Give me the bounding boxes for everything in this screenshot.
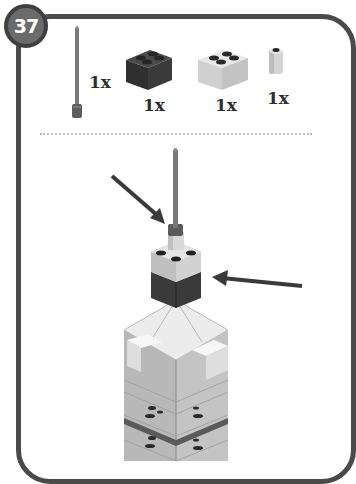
placed-bricks (151, 148, 201, 308)
step-number: 37 (14, 15, 38, 37)
step-badge: 37 (4, 4, 48, 48)
arrow-icon (112, 176, 302, 286)
round-brick-quantity: 1x (267, 88, 289, 108)
assembly-illustration (0, 140, 334, 461)
antenna-quantity: 1x (89, 72, 111, 92)
dark-brick-part-icon (124, 46, 174, 92)
light-brick-quantity: 1x (215, 95, 237, 115)
light-brick-part-icon (196, 46, 250, 92)
dark-brick-quantity: 1x (143, 95, 165, 115)
parts-separator (40, 133, 312, 135)
tower-body (124, 300, 228, 461)
antenna-part-icon (70, 26, 84, 120)
round-brick-part-icon (266, 46, 286, 76)
